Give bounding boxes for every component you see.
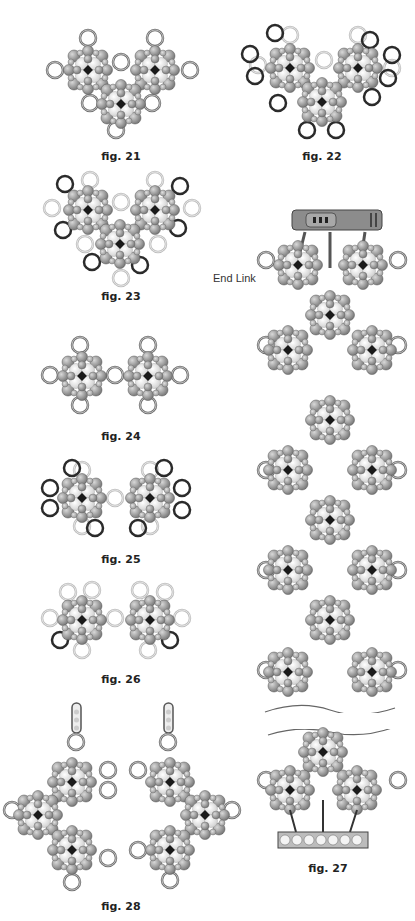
caption-fig-28: fig. 28	[101, 900, 140, 913]
caption-fig-25: fig. 25	[101, 553, 140, 566]
end-link-label: End Link	[213, 272, 256, 284]
caption-fig-23: fig. 23	[101, 290, 140, 303]
caption-fig-24: fig. 24	[101, 430, 140, 443]
caption-fig-27: fig. 27	[308, 862, 347, 875]
caption-fig-21: fig. 21	[101, 150, 140, 163]
ear-hook-icon	[72, 703, 173, 733]
figure-28-earrings	[0, 0, 415, 921]
caption-fig-22: fig. 22	[302, 150, 341, 163]
caption-fig-26: fig. 26	[101, 673, 140, 686]
